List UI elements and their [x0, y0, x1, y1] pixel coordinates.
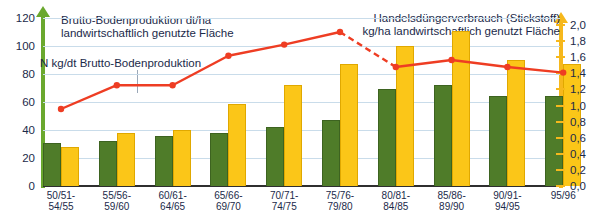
bar-green: [322, 120, 340, 186]
right-tick-mark: [556, 185, 565, 187]
bar-yellow: [340, 64, 358, 186]
right-tick-label: 1,8: [570, 35, 586, 47]
bar-yellow: [173, 130, 191, 186]
bar-green: [545, 96, 563, 186]
left-tick-label: 40: [0, 124, 35, 136]
right-tick-label: 2,0: [570, 19, 586, 31]
left-tick-label: 120: [0, 12, 35, 24]
chart-container: Brutto-Bodenproduktion dt/ha landwirtsch…: [0, 0, 614, 220]
bar-yellow: [117, 133, 135, 186]
right-tick-label: 0,2: [570, 164, 586, 176]
bar-yellow: [396, 46, 414, 186]
bar-green: [489, 96, 507, 186]
right-tick-mark: [556, 169, 565, 171]
x-tick-label: 65/66- 69/70: [200, 190, 256, 212]
right-tick-label: 0,6: [570, 132, 586, 144]
left-axis-arrow-icon: [36, 6, 50, 17]
right-tick-mark: [556, 153, 565, 155]
x-tick-label: 95/96: [535, 190, 591, 201]
x-tick-label: 60/61- 64/65: [145, 190, 201, 212]
left-tick-label: 60: [0, 96, 35, 108]
right-tick-label: 1,4: [570, 67, 586, 79]
x-tick-label: 70/71- 74/75: [256, 190, 312, 212]
bar-green: [378, 89, 396, 186]
left-tick-label: 0: [0, 180, 35, 192]
x-tick-label: 90/91- 94/95: [479, 190, 535, 212]
right-tick-mark: [556, 88, 565, 90]
right-tick-mark: [556, 137, 565, 139]
gridline: [43, 74, 560, 75]
bar-green: [210, 133, 228, 186]
gridline: [43, 18, 560, 19]
x-tick-label: 55/56- 59/60: [89, 190, 145, 212]
bar-green: [99, 141, 117, 186]
left-tick-label: 100: [0, 40, 35, 52]
bar-yellow: [61, 147, 79, 186]
bar-yellow: [507, 60, 525, 186]
bar-yellow: [452, 31, 470, 186]
bar-yellow: [284, 85, 302, 186]
x-tick-label: 80/81- 84/85: [368, 190, 424, 212]
right-tick-mark: [556, 72, 565, 74]
x-tick-label: 75/76- 79/80: [312, 190, 368, 212]
right-tick-label: 0,4: [570, 148, 586, 160]
right-tick-mark: [556, 105, 565, 107]
bar-green: [266, 127, 284, 186]
gridline: [43, 46, 560, 47]
plot-area: [43, 18, 560, 186]
x-tick-label: 50/51- 54/55: [33, 190, 89, 212]
right-tick-mark: [556, 24, 565, 26]
right-tick-mark: [556, 121, 565, 123]
bar-green: [155, 136, 173, 186]
right-tick-label: 1,6: [570, 51, 586, 63]
bar-green: [43, 143, 61, 186]
right-tick-mark: [556, 40, 565, 42]
bar-green: [434, 85, 452, 186]
right-tick-mark: [556, 56, 565, 58]
right-tick-label: 0,8: [570, 116, 586, 128]
left-tick-label: 20: [0, 152, 35, 164]
right-tick-label: 1,2: [570, 83, 586, 95]
right-tick-label: 1,0: [570, 100, 586, 112]
x-tick-label: 85/86- 89/90: [424, 190, 480, 212]
bar-yellow: [228, 104, 246, 186]
left-tick-label: 80: [0, 68, 35, 80]
